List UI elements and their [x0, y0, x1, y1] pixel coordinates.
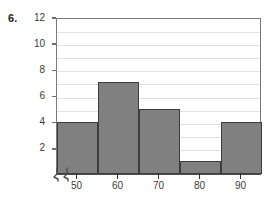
- x-axis-tick-label: 60: [103, 181, 133, 191]
- y-axis-tick-label: 4: [23, 117, 45, 127]
- x-axis-tick-label: 70: [144, 181, 174, 191]
- plot-area: [56, 18, 261, 175]
- y-axis-tick-label: 6: [23, 91, 45, 101]
- x-axis-tick-label: 50: [62, 181, 92, 191]
- y-axis-tick-mark: [52, 17, 56, 19]
- y-axis-tick-label: 10: [23, 39, 45, 49]
- x-axis-tick-label: 90: [226, 181, 256, 191]
- histogram-figure: 12108642 5060708090: [0, 0, 270, 199]
- x-axis-tick-mark: [158, 173, 160, 179]
- y-axis-tick-label: 12: [23, 13, 45, 23]
- bar: [180, 161, 221, 174]
- y-axis-tick-mark: [52, 148, 56, 150]
- x-axis-tick-mark: [199, 173, 201, 179]
- y-axis-tick-mark: [52, 70, 56, 72]
- bar: [139, 109, 180, 174]
- y-axis-tick-label: 2: [23, 143, 45, 153]
- gridline: [57, 71, 260, 72]
- bar: [221, 122, 262, 174]
- x-axis-tick-mark: [117, 173, 119, 179]
- gridline: [57, 45, 260, 46]
- gridline: [57, 32, 260, 33]
- y-axis-tick-label: 8: [23, 65, 45, 75]
- x-axis-tick-label: 80: [185, 181, 215, 191]
- x-axis-tick-mark: [240, 173, 242, 179]
- gridline: [57, 84, 260, 85]
- gridline: [57, 58, 260, 59]
- gridline: [57, 98, 260, 99]
- y-axis-tick-mark: [52, 96, 56, 98]
- bar: [98, 82, 139, 174]
- y-axis-tick-mark: [52, 122, 56, 124]
- y-axis-tick-mark: [52, 43, 56, 45]
- axis-break-icon: [50, 166, 76, 182]
